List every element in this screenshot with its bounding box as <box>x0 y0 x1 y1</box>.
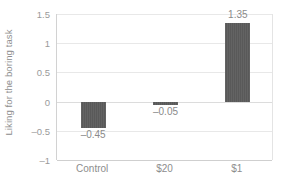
bar-value-label: –0.05 <box>153 106 178 117</box>
y-axis-tick-label: –1 <box>39 155 50 166</box>
plot-area: –0.45–0.051.35 <box>56 14 273 160</box>
bar-value-label: 1.35 <box>228 9 247 20</box>
y-axis-tick-label: 1.5 <box>37 9 50 20</box>
bar <box>153 102 178 105</box>
bar <box>225 23 250 102</box>
x-axis-tick-label: Control <box>76 163 108 174</box>
x-axis-tick-labels: Control$20$1 <box>56 163 273 183</box>
bar-value-label: –0.45 <box>81 129 106 140</box>
y-axis-title: Liking for the boring task <box>0 0 17 165</box>
bar-chart: Liking for the boring task 1.510.50–0.5–… <box>0 0 283 187</box>
y-axis-tick-label: 0 <box>45 96 50 107</box>
y-axis-tick-label: 1 <box>45 38 50 49</box>
y-axis-title-text: Liking for the boring task <box>3 29 14 135</box>
x-axis-tick-label: $20 <box>156 163 173 174</box>
x-axis-tick-label: $1 <box>231 163 242 174</box>
y-axis-tick-label: –0.5 <box>32 125 51 136</box>
bar <box>81 102 106 128</box>
gridline <box>57 160 272 161</box>
y-axis-tick-labels: 1.510.50–0.5–1 <box>17 14 55 160</box>
y-axis-tick-label: 0.5 <box>37 67 50 78</box>
